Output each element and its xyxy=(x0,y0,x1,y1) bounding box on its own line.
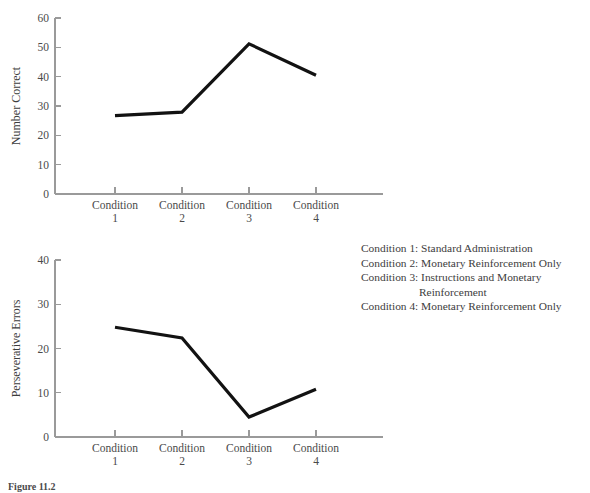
y-tick-label: 60 xyxy=(38,12,50,24)
x-tick-label-condition: Condition xyxy=(92,199,138,211)
y-axis-title: Perseverative Errors xyxy=(9,299,23,397)
x-tick-label-condition: Condition xyxy=(92,442,138,454)
figure-caption-label: Figure 11.2 xyxy=(8,481,56,492)
y-tick-label: 40 xyxy=(38,254,50,266)
y-tick-label: 40 xyxy=(38,71,50,83)
x-tick-label-condition: Condition xyxy=(159,442,205,454)
chart-panel-number-correct: 0102030405060Condition1Condition2Conditi… xyxy=(0,0,400,232)
chart-panel-perseverative-errors: 010203040Condition1Condition2Condition3C… xyxy=(0,242,400,474)
legend-line-condition-2: Condition 2: Monetary Reinforcement Only xyxy=(361,256,586,271)
y-tick-label: 10 xyxy=(38,159,50,171)
x-tick-label-number: 2 xyxy=(179,455,185,467)
y-tick-label: 0 xyxy=(43,188,49,200)
y-tick-label: 30 xyxy=(38,298,50,310)
line-chart-number-correct: 0102030405060Condition1Condition2Conditi… xyxy=(0,0,400,232)
data-series-line xyxy=(115,327,316,417)
x-tick-label-condition: Condition xyxy=(293,199,339,211)
x-tick-label-number: 4 xyxy=(313,212,319,224)
legend-line-condition-1: Condition 1: Standard Administration xyxy=(361,241,586,256)
y-tick-label: 30 xyxy=(38,100,50,112)
y-tick-label: 0 xyxy=(43,431,49,443)
line-chart-perseverative-errors: 010203040Condition1Condition2Condition3C… xyxy=(0,242,400,474)
x-tick-label-number: 3 xyxy=(246,455,252,467)
legend-line-condition-4: Condition 4: Monetary Reinforcement Only xyxy=(361,299,586,314)
x-tick-label-condition: Condition xyxy=(293,442,339,454)
x-tick-label-number: 3 xyxy=(246,212,252,224)
condition-legend: Condition 1: Standard Administration Con… xyxy=(361,241,586,314)
legend-line-condition-3-continuation: Reinforcement xyxy=(361,285,586,300)
x-tick-label-condition: Condition xyxy=(226,199,272,211)
y-tick-label: 20 xyxy=(38,343,50,355)
x-tick-label-number: 1 xyxy=(112,455,118,467)
x-tick-label-number: 1 xyxy=(112,212,118,224)
figure-caption: Figure 11.2 xyxy=(8,481,586,493)
y-axis-title: Number Correct xyxy=(9,66,23,145)
x-tick-label-condition: Condition xyxy=(226,442,272,454)
x-tick-label-number: 2 xyxy=(179,212,185,224)
y-tick-label: 50 xyxy=(38,41,50,53)
data-series-line xyxy=(115,44,316,116)
x-tick-label-condition: Condition xyxy=(159,199,205,211)
x-tick-label-number: 4 xyxy=(313,455,319,467)
y-tick-label: 10 xyxy=(38,387,50,399)
legend-line-condition-3: Condition 3: Instructions and Monetary xyxy=(361,270,586,285)
y-tick-label: 20 xyxy=(38,129,50,141)
